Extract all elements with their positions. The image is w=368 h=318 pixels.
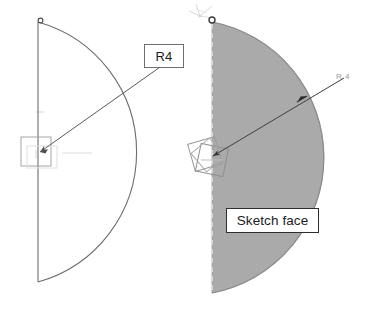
radius-label-right[interactable]: R 4 (336, 72, 350, 81)
right-shaded-figure (188, 4, 344, 293)
shaded-sketch-face[interactable] (212, 22, 324, 293)
coordinate-triad-icon (189, 4, 213, 18)
diagram-canvas: R4 Sketch face R 4 (0, 0, 368, 318)
radius-callout-left[interactable]: R4 (144, 44, 184, 68)
sketch-face-callout-text: Sketch face (237, 213, 309, 228)
sketch-face-callout[interactable]: Sketch face (226, 208, 319, 233)
cad-figures-svg (0, 0, 368, 318)
arc-center-selection-box-shadow (27, 146, 57, 168)
radius-callout-left-text: R4 (155, 49, 172, 64)
left-radius-leader-line[interactable] (40, 60, 170, 152)
left-arc-outline[interactable] (38, 22, 137, 282)
face-origin-point-icon[interactable] (209, 17, 215, 23)
arc-start-point-icon[interactable] (38, 18, 43, 23)
